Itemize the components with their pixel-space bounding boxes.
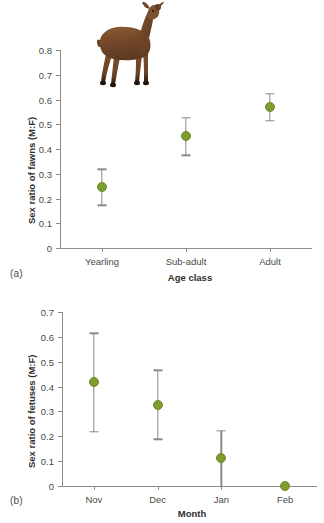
data-point-a-0 bbox=[97, 182, 107, 192]
error-cap-lower-a-0 bbox=[98, 205, 107, 206]
data-point-a-1 bbox=[181, 131, 191, 141]
y-tick-label-b-2: 0.2 bbox=[26, 431, 54, 442]
y-tick-label-b-4: 0.4 bbox=[26, 381, 54, 392]
panel-b: (b) Sex ratio of fetuses (M:F) Month 00.… bbox=[0, 290, 324, 523]
error-cap-upper-a-0 bbox=[98, 169, 107, 170]
y-tick-a-1 bbox=[56, 223, 60, 224]
x-tick-b-1 bbox=[158, 486, 159, 490]
y-tick-label-a-5: 0.5 bbox=[24, 119, 52, 130]
x-tick-label-a-2: Adult bbox=[259, 256, 281, 267]
y-tick-a-5 bbox=[56, 124, 60, 125]
y-tick-a-3 bbox=[56, 174, 60, 175]
y-tick-label-a-2: 0.2 bbox=[24, 193, 52, 204]
y-tick-label-a-6: 0.6 bbox=[24, 94, 52, 105]
y-tick-b-3 bbox=[58, 411, 62, 412]
error-cap-lower-b-1 bbox=[153, 439, 162, 440]
y-tick-b-7 bbox=[58, 312, 62, 313]
x-tick-label-b-0: Nov bbox=[85, 494, 102, 505]
y-tick-label-a-4: 0.4 bbox=[24, 144, 52, 155]
y-tick-label-b-1: 0.1 bbox=[26, 456, 54, 467]
y-tick-label-b-5: 0.5 bbox=[26, 356, 54, 367]
figure-container: (a) bbox=[0, 0, 324, 523]
y-tick-label-b-3: 0.3 bbox=[26, 406, 54, 417]
x-axis-title-a: Age class bbox=[168, 272, 212, 283]
x-tick-label-a-1: Sub-adult bbox=[166, 256, 207, 267]
y-tick-a-2 bbox=[56, 199, 60, 200]
error-cap-lower-a-1 bbox=[182, 154, 191, 155]
y-tick-b-1 bbox=[58, 461, 62, 462]
error-cap-upper-b-1 bbox=[153, 369, 162, 370]
y-tick-label-b-0: 0 bbox=[26, 481, 54, 492]
y-tick-label-b-7: 0.7 bbox=[26, 307, 54, 318]
error-cap-upper-b-2 bbox=[217, 430, 226, 431]
y-tick-b-4 bbox=[58, 387, 62, 388]
x-axis-b bbox=[62, 486, 317, 487]
x-tick-b-2 bbox=[221, 486, 222, 490]
x-tick-b-0 bbox=[94, 486, 95, 490]
data-point-b-3 bbox=[280, 481, 290, 491]
data-point-b-1 bbox=[153, 400, 163, 410]
error-cap-upper-b-0 bbox=[89, 333, 98, 334]
error-cap-lower-a-2 bbox=[266, 120, 275, 121]
y-tick-a-7 bbox=[56, 75, 60, 76]
error-cap-upper-a-1 bbox=[182, 117, 191, 118]
y-tick-label-a-0: 0 bbox=[24, 243, 52, 254]
data-point-b-0 bbox=[89, 377, 99, 387]
y-tick-label-a-7: 0.7 bbox=[24, 69, 52, 80]
x-axis-title-b: Month bbox=[178, 508, 207, 519]
panel-a: (a) bbox=[0, 0, 324, 290]
error-cap-upper-a-2 bbox=[266, 93, 275, 94]
data-point-a-2 bbox=[265, 102, 275, 112]
y-tick-label-a-8: 0.8 bbox=[24, 45, 52, 56]
x-tick-label-b-2: Jan bbox=[214, 494, 229, 505]
x-tick-a-1 bbox=[186, 248, 187, 252]
y-tick-a-6 bbox=[56, 100, 60, 101]
y-tick-label-b-6: 0.6 bbox=[26, 331, 54, 342]
y-tick-a-4 bbox=[56, 149, 60, 150]
x-tick-label-b-3: Feb bbox=[277, 494, 293, 505]
y-tick-label-a-1: 0.1 bbox=[24, 218, 52, 229]
y-tick-b-5 bbox=[58, 362, 62, 363]
y-tick-a-8 bbox=[56, 50, 60, 51]
y-tick-b-0 bbox=[58, 486, 62, 487]
y-tick-a-0 bbox=[56, 248, 60, 249]
y-axis-a bbox=[60, 50, 61, 248]
y-tick-b-2 bbox=[58, 436, 62, 437]
x-tick-a-2 bbox=[270, 248, 271, 252]
data-point-b-2 bbox=[216, 453, 226, 463]
y-axis-b bbox=[62, 312, 63, 486]
x-tick-a-0 bbox=[102, 248, 103, 252]
y-tick-b-6 bbox=[58, 337, 62, 338]
error-cap-lower-b-0 bbox=[89, 431, 98, 432]
y-tick-label-a-3: 0.3 bbox=[24, 168, 52, 179]
x-tick-label-b-1: Dec bbox=[149, 494, 166, 505]
x-tick-label-a-0: Yearling bbox=[85, 256, 119, 267]
